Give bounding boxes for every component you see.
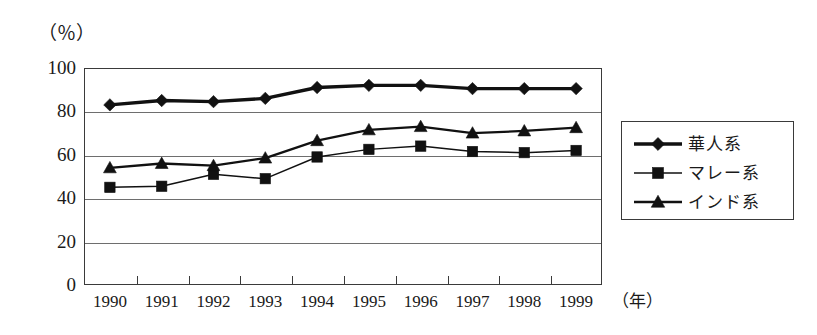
series-line (110, 85, 576, 105)
series-diamond (104, 79, 583, 111)
data-point-marker (519, 147, 529, 157)
data-point-marker (105, 182, 115, 192)
line-chart: （％） 020406080100 19901991199219931994199… (0, 0, 817, 335)
data-point-marker (207, 95, 219, 107)
series-line (110, 146, 576, 187)
legend-item-3[interactable]: インド系 (632, 187, 788, 216)
y-tick-label: 60 (30, 145, 76, 164)
triangle-marker-icon (632, 191, 684, 213)
y-axis-tick-labels: 020406080100 (28, 68, 76, 285)
data-point-marker (466, 82, 478, 94)
series-triangle (104, 120, 583, 173)
y-axis-unit-label: （％） (38, 18, 95, 45)
legend-item-1[interactable]: 華人系 (632, 129, 788, 158)
data-point-marker (363, 79, 375, 91)
data-point-marker (518, 82, 530, 94)
x-tick-label: 1999 (546, 292, 606, 312)
data-point-marker (312, 152, 322, 162)
square-marker-icon (632, 162, 684, 184)
data-point-marker (416, 141, 426, 151)
data-point-marker (571, 145, 581, 155)
series-layer (84, 68, 602, 285)
y-tick-label: 80 (30, 101, 76, 120)
data-point-marker (415, 79, 427, 91)
x-axis-tick-labels: 1990199119921993199419951996199719981999 (84, 292, 602, 318)
y-tick-label: 100 (30, 58, 76, 77)
data-point-marker (311, 81, 323, 93)
legend-item-label: マレー系 (684, 163, 760, 183)
chart-legend: 華人系マレー系インド系 (621, 121, 794, 220)
data-point-marker (156, 94, 168, 106)
data-point-marker (157, 181, 167, 191)
legend-item-label: 華人系 (684, 134, 742, 154)
data-point-marker (104, 99, 116, 111)
data-point-marker (467, 146, 477, 156)
diamond-marker-icon (632, 133, 684, 155)
data-point-marker (260, 173, 270, 183)
data-point-marker (364, 144, 374, 154)
y-tick-label: 20 (30, 232, 76, 251)
series-square (105, 141, 582, 193)
legend-item-label: インド系 (684, 192, 760, 212)
y-tick-label: 0 (30, 275, 76, 294)
x-axis-unit-label: （年） (612, 292, 663, 312)
series-line (110, 127, 576, 168)
legend-item-2[interactable]: マレー系 (632, 158, 788, 187)
y-tick-label: 40 (30, 188, 76, 207)
data-point-marker (570, 82, 582, 94)
data-point-marker (259, 92, 271, 104)
